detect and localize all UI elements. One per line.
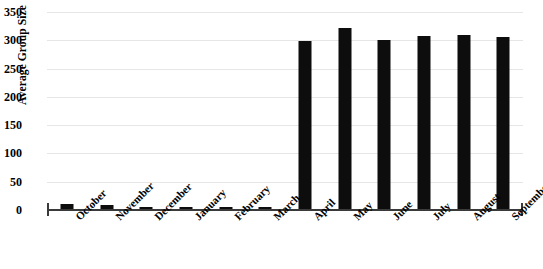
y-tick-label: 350	[0, 6, 22, 18]
x-tick-label: May	[351, 214, 359, 222]
x-tick-label: February	[232, 214, 240, 222]
gridline	[47, 153, 523, 154]
x-tick-label: June	[390, 214, 398, 222]
gridline	[47, 182, 523, 183]
x-tick-label: July	[430, 214, 438, 222]
gridline	[47, 69, 523, 70]
gridline	[47, 97, 523, 98]
x-tick-label: September	[509, 214, 517, 222]
bar	[497, 37, 510, 210]
y-tick-label: 200	[0, 91, 22, 103]
bar	[298, 41, 311, 210]
x-tick-label: August	[470, 214, 478, 222]
x-tick-label: March	[271, 214, 279, 222]
x-tick-label: October	[73, 214, 81, 222]
y-tick-label: 150	[0, 119, 22, 131]
bar-chart: Average Group Size 050100150200250300350…	[0, 0, 543, 269]
y-tick-label: 0	[0, 204, 22, 216]
gridline	[47, 12, 523, 13]
y-tick-label: 100	[0, 147, 22, 159]
x-tick-label: November	[113, 214, 121, 222]
x-tick-label: January	[192, 214, 200, 222]
bar	[457, 35, 470, 210]
bar	[378, 40, 391, 210]
gridline	[47, 40, 523, 41]
x-tick-label: December	[152, 214, 160, 222]
bar	[338, 28, 351, 210]
y-tick-label: 50	[0, 176, 22, 188]
x-tick-label: April	[311, 214, 319, 222]
y-tick-label: 300	[0, 34, 22, 46]
gridline	[47, 125, 523, 126]
bar	[417, 36, 430, 210]
x-axis-start-tick	[47, 203, 49, 216]
plot-area: 050100150200250300350	[47, 12, 523, 210]
y-tick-label: 250	[0, 63, 22, 75]
